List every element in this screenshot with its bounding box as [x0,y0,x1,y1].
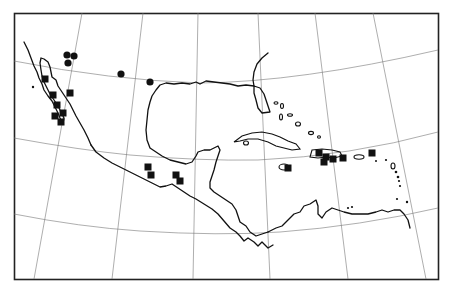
island-dot [397,176,400,179]
circle-marker [70,52,77,59]
caribbean-islands [32,86,408,209]
square-marker [369,150,376,157]
square-marker [330,156,337,163]
island-dot [396,198,398,200]
gulf-coast [146,53,268,236]
square-marker [42,76,49,83]
island-dot [375,160,377,162]
square-marker [60,110,67,117]
bahamas-island [274,102,278,104]
meridian-line [315,13,348,279]
bahamas-island [296,122,301,126]
square-marker [316,150,323,157]
square-marker [173,172,180,179]
square-marker [67,90,74,97]
square-marker [340,155,347,162]
island-dot [351,206,353,208]
square-marker [54,102,61,109]
bahamas-island [288,114,293,116]
square-marker [50,92,57,99]
circle-marker [63,51,70,58]
circle-markers [63,51,153,85]
bahamas-island [280,114,283,120]
baja-california [24,42,91,145]
island-dot [391,163,395,169]
bahamas-island [309,131,314,134]
circle-marker [146,78,153,85]
island-dot [347,207,349,209]
square-marker [285,165,292,172]
square-markers [42,76,376,185]
circle-marker [64,59,71,66]
graticule [14,13,438,279]
square-marker [177,178,184,185]
square-marker [321,159,328,166]
square-marker [145,164,152,171]
puerto-rico [354,155,364,159]
meridian-line [112,13,143,279]
island-dot [398,180,400,182]
bahamas-island [281,104,284,109]
coastlines [24,42,410,248]
circle-marker [117,70,124,77]
meridian-line [193,13,198,279]
square-marker [52,113,59,120]
island-dot [395,171,398,174]
map [0,0,452,289]
bahamas-island [318,136,321,138]
meridian-line [373,13,426,279]
island-dot [32,86,34,88]
pacific-coast-mexico-central-america [91,145,273,248]
island-dot [406,201,408,203]
isle-of-youth [244,141,249,145]
island-dot [399,185,401,187]
square-marker [58,119,65,126]
parallel-line [14,50,438,83]
square-marker [148,172,155,179]
island-dot [385,159,387,161]
